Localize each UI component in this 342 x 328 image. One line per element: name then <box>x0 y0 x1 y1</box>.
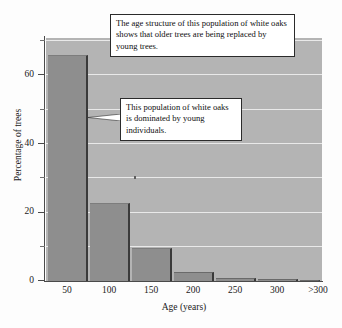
y-tick-minor-30 <box>40 177 45 178</box>
callout-age-structure: The age structure of this population of … <box>110 14 295 57</box>
x-axis-ticks: 50 100 150 200 250 300 >300 <box>46 285 322 301</box>
y-tick-60 <box>38 74 45 75</box>
callout-leader-line <box>88 114 121 121</box>
bar-age-100 <box>90 203 130 281</box>
bar-age-200 <box>174 272 214 281</box>
x-axis-line <box>44 281 323 282</box>
bar-age-150 <box>132 248 172 281</box>
y-tick-minor-50 <box>40 109 45 110</box>
y-tick-40 <box>38 143 45 144</box>
x-tick-label-300: 300 <box>256 285 298 295</box>
bar-age-50 <box>48 55 88 281</box>
x-tick-label-250: 250 <box>214 285 256 295</box>
y-tick-label-60: 60 <box>4 69 34 79</box>
x-axis-title: Age (years) <box>46 302 322 312</box>
y-tick-label-0: 0 <box>4 275 34 285</box>
y-tick-0 <box>38 280 45 281</box>
x-tick-label-150: 150 <box>130 285 172 295</box>
x-tick-label-50: 50 <box>46 285 88 295</box>
callout-young-dominated: This population of white oaks is dominat… <box>120 98 242 141</box>
x-tick-label-200: 200 <box>172 285 214 295</box>
y-axis-title: Percentage of trees <box>13 90 23 200</box>
y-tick-minor-10 <box>40 246 45 247</box>
y-tick-20 <box>38 212 45 213</box>
x-tick-label-100: 100 <box>88 285 130 295</box>
x-tick-label-over-300: >300 <box>296 285 340 295</box>
y-tick-minor-70 <box>40 40 45 41</box>
scan-speck <box>134 176 136 179</box>
y-tick-label-20: 20 <box>4 206 34 216</box>
plot-area <box>46 38 322 281</box>
figure-histogram-white-oak-age-structure: 60 40 20 0 Percentage of trees 50 100 15… <box>0 0 342 328</box>
